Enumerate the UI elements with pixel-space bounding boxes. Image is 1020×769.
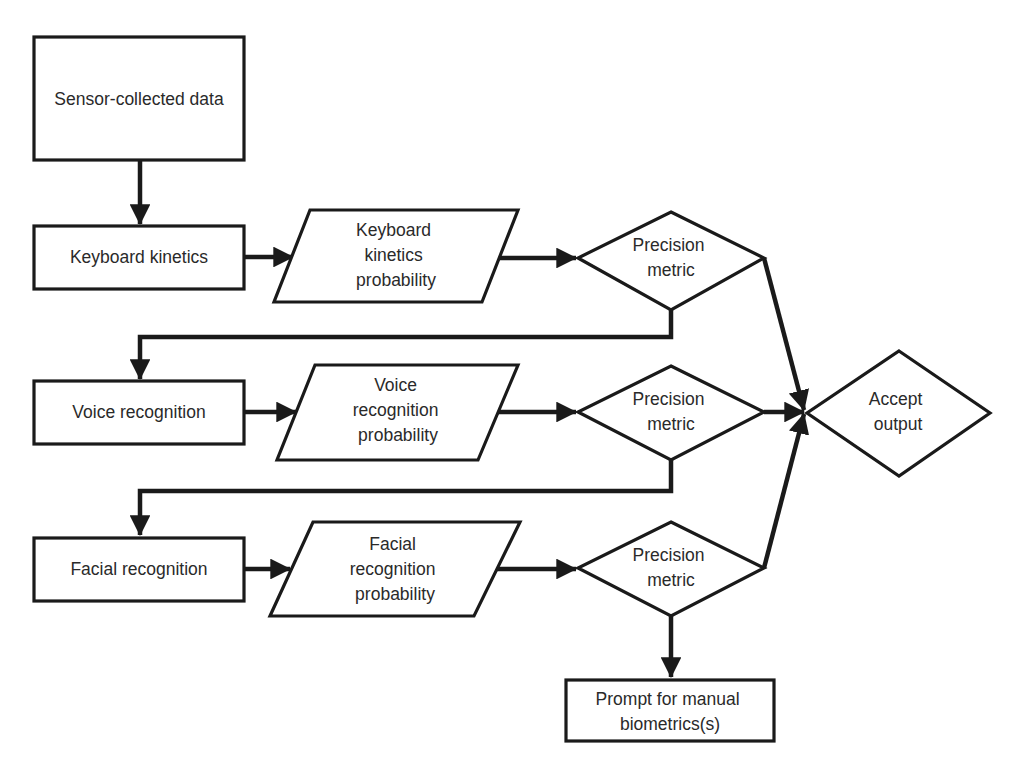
node-sensor-collected-data: Sensor-collected data bbox=[34, 37, 244, 160]
node-precision-metric-2: Precision metric bbox=[578, 366, 764, 460]
node-label-line: biometrics(s) bbox=[620, 714, 720, 734]
node-precision-metric-3: Precision metric bbox=[578, 522, 764, 616]
edge-precision3-to-accept bbox=[764, 414, 804, 568]
node-prompt-manual-biometrics: Prompt for manual biometrics(s) bbox=[566, 680, 774, 741]
node-label-line: probability bbox=[358, 425, 438, 445]
node-label: Voice recognition bbox=[72, 402, 205, 422]
node-label-line: kinetics bbox=[364, 245, 423, 265]
node-label-line: Precision bbox=[633, 545, 705, 565]
node-label-line: output bbox=[874, 414, 923, 434]
svg-text:Voice recognition: Voice recognition bbox=[72, 402, 205, 422]
node-label: Keyboard kinetics bbox=[70, 247, 208, 267]
node-label-line: metric bbox=[647, 260, 695, 280]
node-label-line: Keyboard bbox=[356, 220, 431, 240]
node-label-line: probability bbox=[355, 584, 435, 604]
node-label-line: Precision bbox=[633, 235, 705, 255]
node-label-line: Prompt for manual bbox=[596, 689, 740, 709]
node-label-line: Voice bbox=[374, 375, 417, 395]
node-label-line: Accept bbox=[869, 389, 923, 409]
edge-precision1-to-accept bbox=[764, 258, 804, 410]
node-label-line: metric bbox=[647, 570, 695, 590]
node-facial-recognition: Facial recognition bbox=[34, 538, 244, 601]
node-accept-output: Accept output bbox=[807, 351, 990, 476]
node-voice-recognition-probability: Voice recognition probability bbox=[277, 365, 518, 460]
svg-text:Keyboard kinetics: Keyboard kinetics probability bbox=[356, 220, 436, 290]
node-label-line: Precision bbox=[633, 389, 705, 409]
node-label: Sensor-collected data bbox=[54, 89, 224, 109]
node-precision-metric-1: Precision metric bbox=[578, 212, 764, 310]
node-facial-recognition-probability: Facial recognition probability bbox=[270, 522, 520, 616]
node-label-line: Facial bbox=[369, 534, 416, 554]
node-label-line: probability bbox=[356, 270, 436, 290]
flowchart-canvas: Sensor-collected data Keyboard kinetics … bbox=[0, 0, 1020, 769]
svg-text:Sensor-collected data: Sensor-collected data bbox=[54, 89, 224, 109]
node-label-line: metric bbox=[647, 414, 695, 434]
svg-text:Facial recognition: Facial recognition bbox=[70, 559, 207, 579]
node-label: Facial recognition bbox=[70, 559, 207, 579]
node-voice-recognition: Voice recognition bbox=[34, 381, 244, 444]
svg-text:Keyboard kinetics: Keyboard kinetics bbox=[70, 247, 208, 267]
node-label-line: recognition bbox=[350, 559, 436, 579]
node-keyboard-kinetics-probability: Keyboard kinetics probability bbox=[274, 210, 518, 302]
node-keyboard-kinetics: Keyboard kinetics bbox=[34, 226, 244, 289]
node-label-line: recognition bbox=[353, 400, 439, 420]
